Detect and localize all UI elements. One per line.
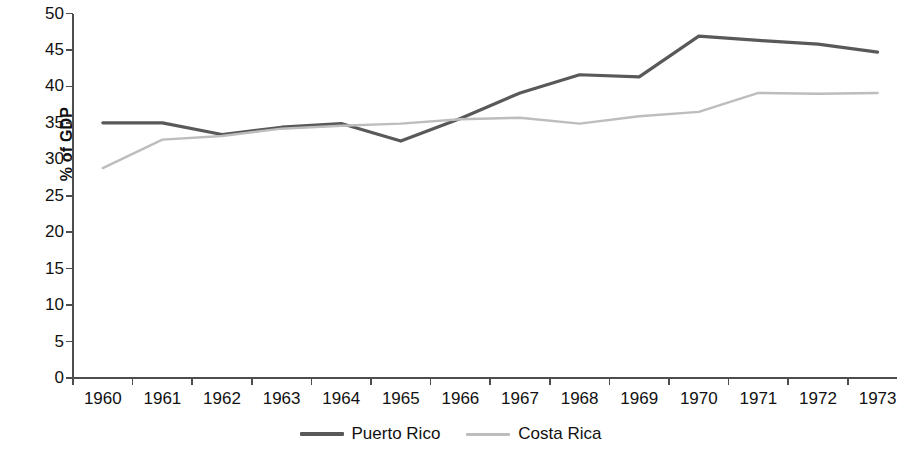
legend-item[interactable]: Puerto Rico: [300, 424, 441, 444]
legend-item[interactable]: Costa Rica: [466, 424, 601, 444]
tick-marks: [66, 14, 848, 386]
series-line-1: [103, 36, 878, 141]
chart-legend: Puerto RicoCosta Rica: [0, 424, 901, 444]
legend-label: Puerto Rico: [352, 424, 441, 444]
legend-swatch-icon: [300, 432, 344, 436]
axis-lines: [66, 14, 897, 379]
legend-label: Costa Rica: [518, 424, 601, 444]
legend-swatch-icon: [466, 433, 510, 436]
plot-area: [0, 0, 901, 449]
chart-container: % of GDP 50454035302520151050 1960196119…: [0, 0, 901, 449]
data-series-lines: [103, 36, 878, 168]
